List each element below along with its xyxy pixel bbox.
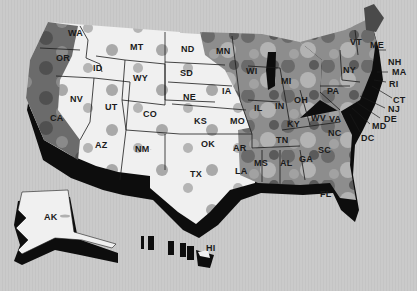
label-wv: WV bbox=[311, 114, 326, 123]
lake-michigan bbox=[266, 52, 276, 90]
label-ri: RI bbox=[389, 80, 398, 89]
label-hi: HI bbox=[206, 244, 215, 253]
label-ma: MA bbox=[392, 68, 406, 77]
label-va: VA bbox=[329, 115, 341, 124]
label-nj: NJ bbox=[388, 105, 400, 114]
label-ia: IA bbox=[222, 87, 231, 96]
label-sd: SD bbox=[180, 69, 193, 78]
label-in: IN bbox=[275, 102, 284, 111]
label-ms: MS bbox=[254, 159, 268, 168]
label-dc: DC bbox=[361, 134, 374, 143]
label-tx: TX bbox=[190, 170, 202, 179]
label-co: CO bbox=[143, 110, 157, 119]
label-sc: SC bbox=[318, 146, 331, 155]
label-mt: MT bbox=[130, 43, 143, 52]
label-mo: MO bbox=[230, 117, 245, 126]
label-ny: NY bbox=[343, 66, 356, 75]
label-mn: MN bbox=[216, 47, 230, 56]
label-nm: NM bbox=[135, 145, 149, 154]
state-me-fill bbox=[364, 4, 384, 32]
label-wa: WA bbox=[68, 29, 83, 38]
label-me: ME bbox=[370, 41, 384, 50]
label-nv: NV bbox=[70, 95, 83, 104]
label-or: OR bbox=[56, 54, 70, 63]
label-al: AL bbox=[280, 159, 292, 168]
label-pa: PA bbox=[327, 87, 339, 96]
label-tn: TN bbox=[276, 136, 288, 145]
hawaii-islands bbox=[141, 236, 214, 268]
label-md: MD bbox=[372, 122, 386, 131]
label-ok: OK bbox=[201, 140, 215, 149]
label-nh: NH bbox=[388, 58, 401, 67]
label-id: ID bbox=[93, 64, 102, 73]
label-vt: VT bbox=[350, 38, 362, 47]
label-ks: KS bbox=[194, 117, 207, 126]
label-oh: OH bbox=[294, 96, 308, 105]
label-az: AZ bbox=[95, 141, 107, 150]
label-ca: CA bbox=[50, 114, 63, 123]
label-la: LA bbox=[235, 167, 247, 176]
label-ar: AR bbox=[233, 144, 246, 153]
label-nd: ND bbox=[181, 45, 194, 54]
label-il: IL bbox=[254, 104, 262, 113]
label-ak: AK bbox=[44, 213, 57, 222]
label-fl: FL bbox=[320, 190, 331, 199]
label-wi: WI bbox=[246, 67, 257, 76]
label-ut: UT bbox=[105, 103, 117, 112]
label-ga: GA bbox=[299, 155, 313, 164]
label-ne: NE bbox=[183, 93, 196, 102]
label-ky: KY bbox=[287, 120, 300, 129]
label-nc: NC bbox=[328, 129, 341, 138]
label-mi: MI bbox=[281, 77, 291, 86]
label-wy: WY bbox=[133, 74, 148, 83]
